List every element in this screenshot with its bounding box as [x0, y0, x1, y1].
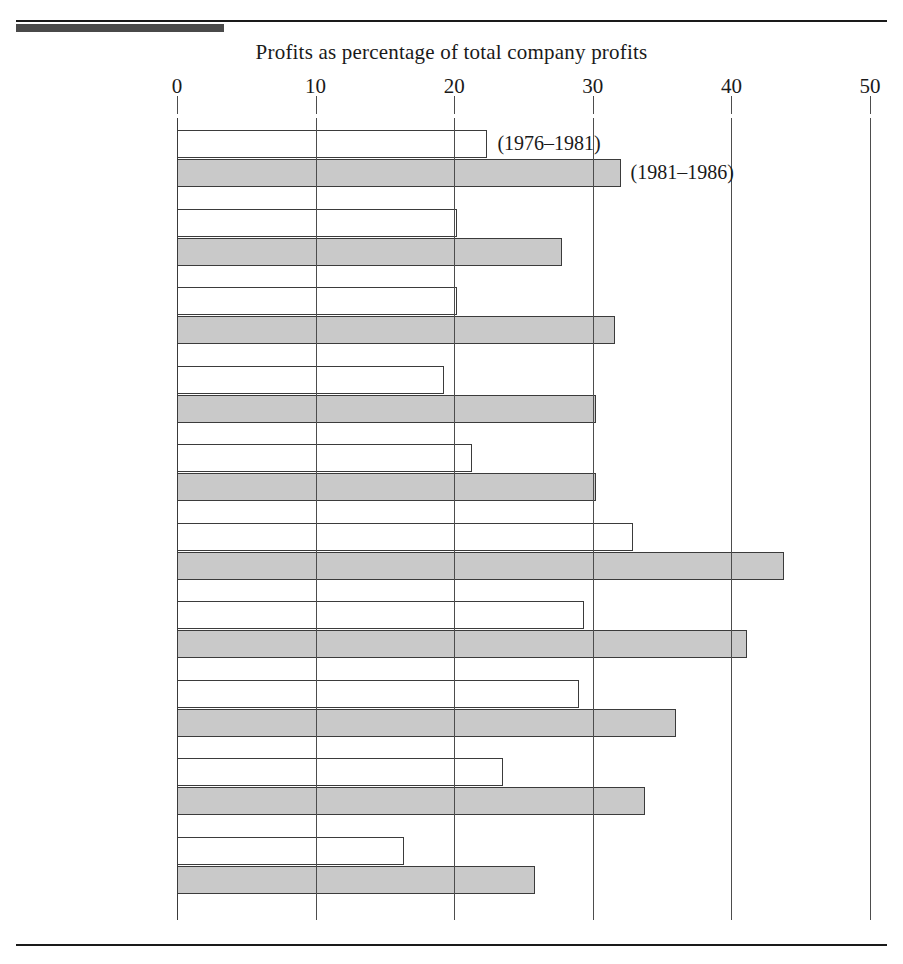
gridline-0 [177, 118, 178, 920]
figure: Profits as percentage of total company p… [0, 0, 903, 964]
bar-period2 [177, 866, 535, 894]
x-tick-label: 40 [721, 74, 742, 99]
bar-row: Information processing [177, 515, 870, 594]
gridline-50 [870, 118, 871, 920]
top-rule [16, 20, 887, 22]
bar-period2 [177, 552, 784, 580]
bar-period1 [177, 366, 444, 394]
bar-period1 [177, 130, 487, 158]
bar-rows: All-industry totalChemicalsIndustrial ma… [177, 118, 870, 920]
bar-period1 [177, 287, 457, 315]
bar-period1 [177, 523, 633, 551]
x-tick-label: 30 [582, 74, 603, 99]
x-tick-label: 50 [860, 74, 881, 99]
bar-period2 [177, 709, 676, 737]
legend-annotation: (1981–1986) [631, 161, 734, 184]
gridline-40 [731, 118, 732, 920]
bar-period2 [177, 473, 596, 501]
bottom-rule [16, 944, 887, 946]
bar-row: Consumer durables [177, 672, 870, 751]
bar-period2 [177, 238, 562, 266]
bar-row: Industrial machinery [177, 279, 870, 358]
x-tick-label: 0 [172, 74, 183, 99]
bar-period2 [177, 159, 621, 187]
x-tick-label: 10 [305, 74, 326, 99]
gridline-30 [593, 118, 594, 920]
chart-title: Profits as percentage of total company p… [0, 40, 903, 65]
legend-annotation: (1976–1981) [497, 132, 600, 155]
bar-period1 [177, 444, 472, 472]
gridline-10 [316, 118, 317, 920]
gridline-20 [454, 118, 455, 920]
bar-period1 [177, 209, 457, 237]
bar-row: Textiles [177, 750, 870, 829]
bar-period2 [177, 395, 596, 423]
bar-row: OEM components [177, 358, 870, 437]
bar-period1 [177, 680, 579, 708]
x-tick-label: 20 [444, 74, 465, 99]
plot-area: All-industry totalChemicalsIndustrial ma… [177, 118, 870, 920]
bar-period2 [177, 630, 747, 658]
bar-period1 [177, 837, 404, 865]
bar-period2 [177, 787, 645, 815]
bar-row: Consumer nondurables [177, 829, 870, 908]
bar-period1 [177, 601, 584, 629]
bar-period2 [177, 316, 615, 344]
bar-row: Instruments and controls [177, 593, 870, 672]
tab-marker [16, 24, 224, 32]
bar-row: Chemicals [177, 201, 870, 280]
bar-row: Power- generating equipment [177, 436, 870, 515]
